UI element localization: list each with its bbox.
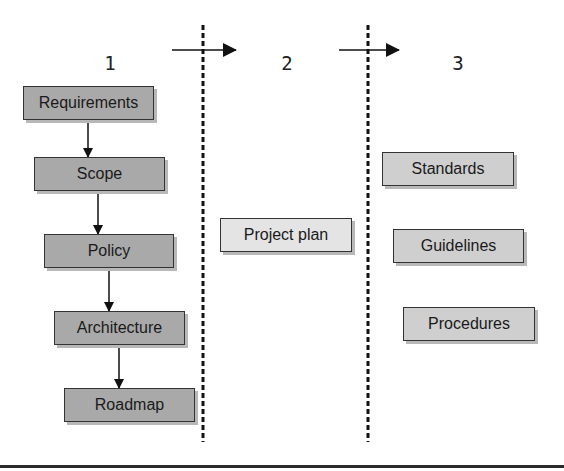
- box-standards: Standards: [382, 152, 514, 186]
- phase-label-3: 3: [443, 52, 473, 74]
- box-roadmap: Roadmap: [64, 388, 195, 422]
- diagram-canvas: 1 2 3 Requirements Scope Policy Architec…: [0, 0, 564, 471]
- box-project-plan: Project plan: [220, 218, 352, 252]
- bottom-divider: [0, 465, 564, 468]
- box-scope: Scope: [34, 157, 165, 191]
- box-requirements: Requirements: [23, 86, 154, 120]
- box-architecture: Architecture: [54, 311, 185, 345]
- box-policy: Policy: [44, 234, 174, 268]
- box-procedures: Procedures: [403, 307, 535, 341]
- phase-label-2: 2: [272, 52, 302, 74]
- phase-label-1: 1: [95, 52, 125, 74]
- box-guidelines: Guidelines: [393, 229, 524, 263]
